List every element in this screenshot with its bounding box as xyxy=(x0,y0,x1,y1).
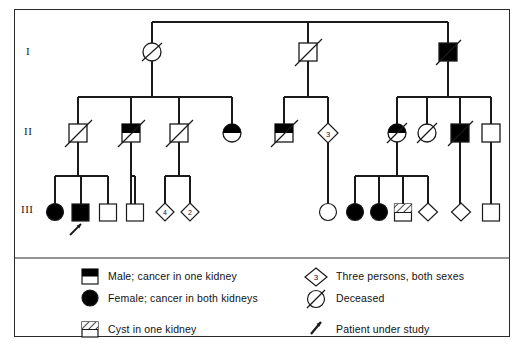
legend-diamond-number: 3 xyxy=(314,273,319,282)
individual-III-10[interactable] xyxy=(395,204,412,221)
legend-icon-patient-under-study xyxy=(311,322,321,334)
individual-II-8[interactable] xyxy=(417,123,437,143)
legend-left-symbols xyxy=(82,269,98,337)
individual-I-3[interactable] xyxy=(436,40,461,65)
individual-II-7[interactable] xyxy=(387,123,407,143)
legend-label-patient-under-study: Patient under study xyxy=(336,323,429,335)
individual-III-11[interactable] xyxy=(419,203,438,221)
legend-icon-male-one-kidney xyxy=(82,269,98,284)
generation-3-row: 4 2 xyxy=(47,203,500,235)
individual-II-6[interactable]: 3 xyxy=(318,123,338,143)
diamond-count-label: 4 xyxy=(163,209,167,216)
individual-II-5[interactable] xyxy=(271,120,298,147)
individual-III-8[interactable] xyxy=(347,204,364,221)
legend-icon-cyst-one-kidney xyxy=(82,322,98,337)
individual-III-5[interactable]: 4 xyxy=(156,203,174,221)
individual-III-6[interactable]: 2 xyxy=(181,203,199,221)
legend-icon-deceased xyxy=(307,290,325,308)
legend-label-deceased: Deceased xyxy=(336,292,384,304)
individual-II-4[interactable] xyxy=(223,124,241,142)
legend-label-cyst-one-kidney: Cyst in one kidney xyxy=(108,323,197,335)
generation-2-row: 3 xyxy=(65,120,500,147)
legend-icon-three-persons: 3 xyxy=(305,268,327,286)
individual-III-4[interactable] xyxy=(127,204,144,221)
individual-III-1[interactable] xyxy=(47,204,64,221)
pedigree-connector-lines xyxy=(55,22,491,204)
legend-label-female-both-kidneys: Female; cancer in both kidneys xyxy=(108,292,258,304)
individual-III-12[interactable] xyxy=(452,203,471,221)
individual-I-1[interactable] xyxy=(142,43,162,61)
individual-II-10[interactable] xyxy=(482,124,500,142)
legend-icon-female-both-kidneys xyxy=(82,290,98,306)
legend-right-symbols: 3 xyxy=(305,268,327,334)
diamond-count-label: 2 xyxy=(188,209,192,216)
individual-III-9[interactable] xyxy=(371,204,388,221)
individual-III-7[interactable] xyxy=(320,204,337,221)
diamond-count-label: 3 xyxy=(326,130,330,139)
generation-1-row xyxy=(142,39,461,66)
individual-III-2[interactable] xyxy=(70,204,89,235)
individual-III-13[interactable] xyxy=(483,204,500,221)
pedigree-canvas: 3 xyxy=(0,0,522,353)
individual-III-3[interactable] xyxy=(100,204,117,221)
legend-label-male-one-kidney: Male; cancer in one kidney xyxy=(108,270,237,282)
legend-label-three-persons: Three persons, both sexes xyxy=(336,270,464,282)
individual-II-9[interactable] xyxy=(448,121,473,146)
